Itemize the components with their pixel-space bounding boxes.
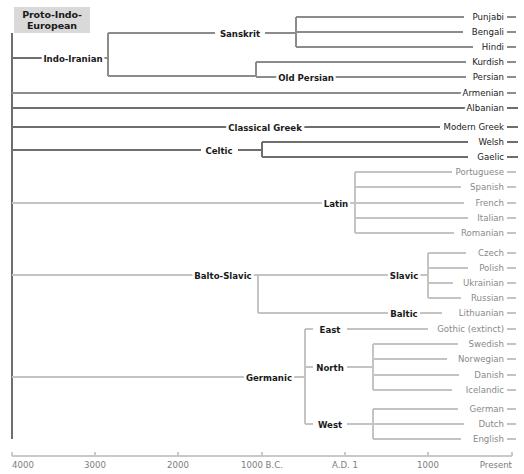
node-label-halo-sanskrit: Sanskrit <box>220 29 260 39</box>
leaf-label-halo-russian: Russian <box>471 293 504 303</box>
node-label-halo-classical-greek: Classical Greek <box>228 123 302 133</box>
node-label-halo-east: East <box>320 325 341 335</box>
node-label-halo-west: West <box>318 420 342 430</box>
node-label-halo-balto-slavic: Balto-Slavic <box>194 271 251 281</box>
leaf-label-halo-kurdish: Kurdish <box>472 57 504 67</box>
leaf-label-halo-gothic: Gothic (extinct) <box>437 324 504 334</box>
leaf-label-halo-swedish: Swedish <box>468 339 504 349</box>
axis-tick-label-0: 4000 <box>12 460 34 470</box>
node-label-halo-baltic: Baltic <box>390 309 417 319</box>
axis-tick-label-5: 1000 <box>417 460 439 470</box>
leaf-label-halo-hindi: Hindi <box>482 42 504 52</box>
leaf-label-halo-german: German <box>470 404 504 414</box>
axis-tick-label-6: Present <box>480 460 513 470</box>
leaf-label-halo-welsh: Welsh <box>478 137 504 147</box>
tree-svg: Indo-IranianIndo-IranianSanskritSanskrit… <box>0 0 524 474</box>
leaf-label-halo-albanian: Albanian <box>466 103 504 113</box>
leaf-label-halo-lithuanian: Lithuanian <box>459 308 504 318</box>
leaf-label-halo-danish: Danish <box>474 370 504 380</box>
leaf-label-halo-spanish: Spanish <box>470 182 504 192</box>
leaf-label-halo-polish: Polish <box>479 263 504 273</box>
node-label-halo-slavic: Slavic <box>390 271 419 281</box>
node-label-halo-north: North <box>316 363 344 373</box>
leaf-label-halo-italian: Italian <box>477 213 504 223</box>
leaf-label-halo-ukrainian: Ukrainian <box>463 278 504 288</box>
leaf-label-halo-persian: Persian <box>473 72 504 82</box>
leaf-label-halo-norwegian: Norwegian <box>458 354 504 364</box>
leaf-label-halo-punjabi: Punjabi <box>473 12 504 22</box>
language-tree-figure: Indo-IranianIndo-IranianSanskritSanskrit… <box>0 0 524 474</box>
axis-tick-label-3: 1000 B.C. <box>241 460 283 470</box>
leaf-label-halo-portuguese: Portuguese <box>456 167 504 177</box>
leaf-label-halo-french: French <box>475 198 504 208</box>
leaf-label-halo-dutch: Dutch <box>478 419 504 429</box>
node-label-halo-latin: Latin <box>324 199 348 209</box>
node-label-halo-old-persian: Old Persian <box>278 73 334 83</box>
axis-tick-label-1: 3000 <box>84 460 106 470</box>
node-label-halo-indo-iranian: Indo-Iranian <box>43 54 102 64</box>
root-node-label: Proto-Indo-European <box>14 9 90 31</box>
leaf-label-halo-modern-greek: Modern Greek <box>443 122 504 132</box>
axis-tick-label-4: A.D. 1 <box>332 460 358 470</box>
leaf-label-halo-bengali: Bengali <box>472 27 504 37</box>
leaf-label-halo-czech: Czech <box>478 248 504 258</box>
axis-tick-label-2: 2000 <box>167 460 189 470</box>
node-label-halo-celtic: Celtic <box>205 146 232 156</box>
node-label-halo-germanic: Germanic <box>246 373 292 383</box>
leaf-label-halo-gaelic: Gaelic <box>477 152 504 162</box>
leaf-label-halo-icelandic: Icelandic <box>466 385 504 395</box>
leaf-label-halo-english: English <box>473 434 504 444</box>
root-node-proto-indo-european: Proto-Indo-European <box>14 7 90 33</box>
leaf-label-halo-armenian: Armenian <box>463 88 504 98</box>
leaf-label-halo-romanian: Romanian <box>461 228 504 238</box>
